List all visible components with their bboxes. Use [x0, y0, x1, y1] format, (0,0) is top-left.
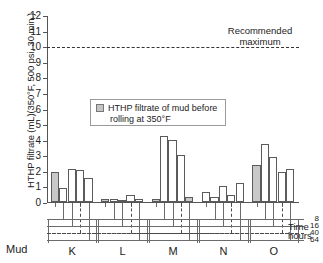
chart-root: HTHP filtrate (mL)(350°F, 500 psi, 30 mi…	[0, 0, 323, 263]
bar-l-64	[135, 199, 143, 202]
time-connector-40h-o	[282, 203, 283, 233]
time-band-rule-8h	[47, 219, 304, 220]
bar-k-before	[51, 172, 59, 202]
mud-label-l: L	[103, 245, 143, 258]
time-band-rule-16h	[47, 226, 304, 227]
bar-k-16	[68, 169, 76, 202]
time-connector-16h-o	[273, 203, 274, 226]
bar-n-16	[219, 186, 227, 202]
time-ladder	[47, 203, 323, 243]
y-tick-label: 9	[25, 58, 41, 68]
y-tick-label: 3	[25, 151, 41, 161]
bar-m-8	[160, 136, 168, 202]
time-connector-64h-m	[189, 203, 190, 240]
bar-tick	[257, 203, 258, 207]
mud-row-title: Mud	[6, 243, 50, 256]
time-connector-64h-n	[240, 203, 241, 240]
bar-tick	[105, 203, 106, 207]
recommended-maximum-line2: maximum	[239, 36, 280, 47]
bar-m-40	[177, 155, 185, 202]
bar-o-64	[286, 169, 294, 202]
bar-n-64	[236, 183, 244, 202]
y-tick-label: 10	[25, 42, 41, 52]
y-tick-label: 5	[25, 120, 41, 130]
time-axis-label-line2: hours	[288, 230, 312, 241]
y-tick-label: 0	[25, 198, 41, 208]
recommended-maximum-line	[47, 47, 299, 48]
mud-category-row: Mud KLMNO	[0, 243, 323, 261]
time-connector-40h-m	[181, 203, 182, 233]
bar-m-16	[168, 140, 176, 202]
time-connector-16h-l	[122, 203, 123, 226]
time-connector-40h-n	[231, 203, 232, 233]
time-band-rule-64h	[47, 240, 304, 241]
time-connector-16h-k	[72, 203, 73, 226]
legend-swatch-icon	[96, 104, 104, 112]
bar-tick	[206, 203, 207, 207]
mud-label-m: M	[153, 245, 193, 258]
y-tick-label: 6	[25, 105, 41, 115]
time-connector-16h-m	[173, 203, 174, 226]
time-connector-8h-n	[215, 203, 216, 219]
time-connector-40h-l	[131, 203, 132, 233]
time-connector-8h-l	[114, 203, 115, 219]
bar-tick	[55, 203, 56, 207]
recommended-maximum-label: Recommended maximum	[205, 25, 315, 47]
recommended-maximum-line1: Recommended	[228, 25, 292, 36]
y-tick-label: 4	[25, 136, 41, 146]
bar-m-64	[185, 197, 193, 202]
bar-l-before	[101, 199, 109, 202]
y-tick-label: 7	[25, 89, 41, 99]
bar-n-40	[227, 195, 235, 202]
time-connector-8h-k	[63, 203, 64, 219]
time-connector-40h-k	[80, 203, 81, 233]
legend: HTHP filtrate of mud before rolling at 3…	[90, 99, 226, 126]
bar-k-40	[76, 170, 84, 202]
y-tick-label: 11	[25, 27, 41, 37]
time-connector-64h-k	[89, 203, 90, 240]
mud-label-k: K	[52, 245, 92, 258]
y-tick-label: 2	[25, 167, 41, 177]
y-tick-label: 8	[25, 73, 41, 83]
bar-o-16	[269, 157, 277, 202]
bar-n-8	[210, 197, 218, 202]
bar-k-64	[84, 178, 92, 202]
bar-n-before	[202, 192, 210, 202]
bar-tick	[156, 203, 157, 207]
mud-label-n: N	[203, 245, 243, 258]
bar-l-8	[110, 199, 118, 202]
y-tick-label: 1	[25, 182, 41, 192]
time-connector-8h-m	[164, 203, 165, 219]
y-tick-label: 12	[25, 11, 41, 21]
time-connector-16h-n	[223, 203, 224, 226]
bar-o-8	[261, 144, 269, 202]
legend-entry: HTHP filtrate of mud before	[96, 103, 221, 113]
bar-m-before	[152, 199, 160, 202]
legend-label-line2: rolling at 350°F	[110, 114, 221, 124]
time-connector-8h-o	[265, 203, 266, 219]
legend-label-line1: HTHP filtrate of mud before	[108, 103, 217, 113]
bar-k-8	[59, 188, 67, 202]
time-band-rule-40h	[47, 233, 304, 234]
bar-l-40	[126, 195, 134, 202]
time-connector-64h-l	[139, 203, 140, 240]
bar-o-before	[252, 165, 260, 202]
bar-o-40	[278, 172, 286, 202]
bar-l-16	[118, 200, 126, 202]
mud-label-o: O	[254, 245, 294, 258]
